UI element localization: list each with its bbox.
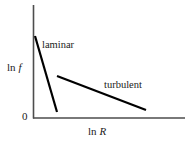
turbulent-curve-label: turbulent bbox=[104, 80, 142, 91]
y-axis-label-prefix: ln bbox=[7, 61, 16, 73]
x-axis-label-prefix: ln bbox=[88, 125, 97, 137]
friction-factor-figure: lnf lnR 0 laminar turbulent bbox=[0, 0, 193, 145]
y-axis-label-symbol: f bbox=[19, 61, 22, 73]
x-axis-label-symbol: R bbox=[100, 125, 107, 137]
y-axis-label: lnf bbox=[7, 62, 22, 73]
plot-canvas bbox=[0, 0, 193, 145]
origin-tick-label: 0 bbox=[22, 111, 28, 122]
laminar-curve-label: laminar bbox=[42, 40, 74, 51]
x-axis-label: lnR bbox=[88, 126, 106, 137]
